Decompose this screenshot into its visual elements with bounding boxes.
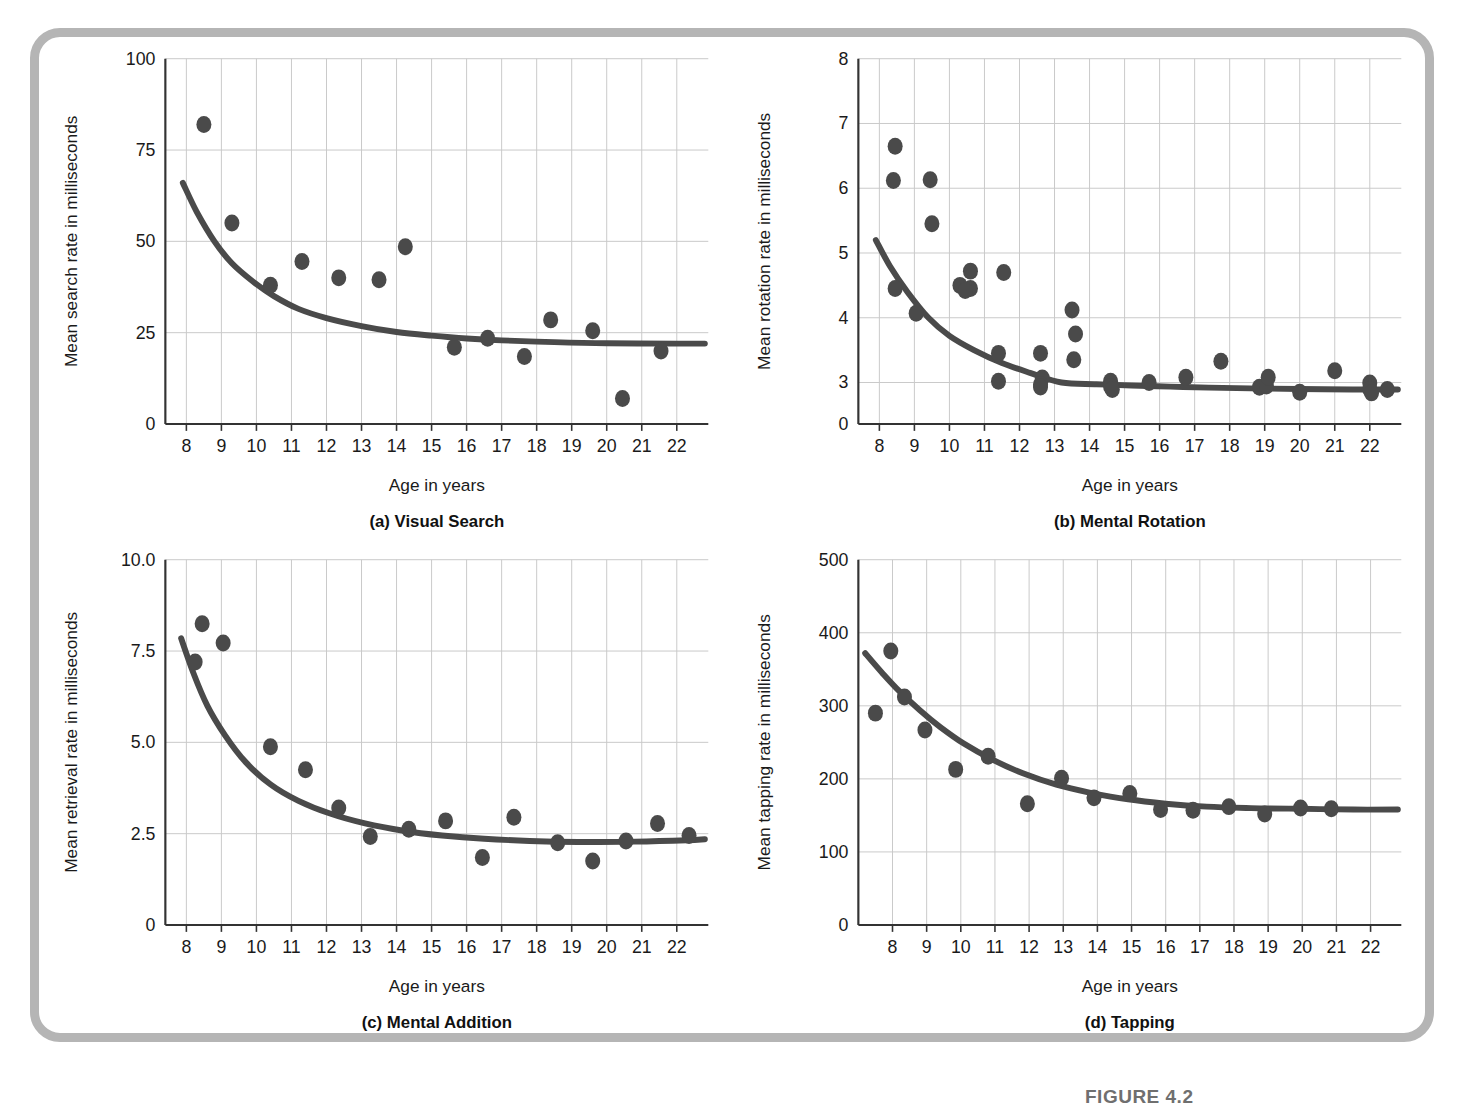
data-point — [868, 704, 883, 721]
data-point — [654, 342, 669, 359]
data-point — [1105, 381, 1120, 398]
y-axis-title: Mean tapping rate in milliseconds — [754, 613, 774, 870]
data-point — [438, 812, 453, 829]
data-point — [1364, 384, 1379, 401]
x-tick-label: 19 — [1258, 936, 1278, 956]
data-point — [897, 688, 912, 705]
data-point — [886, 172, 901, 189]
x-tick-label: 14 — [1080, 436, 1100, 456]
y-tick-label: 3 — [839, 372, 849, 392]
fitted-curve — [181, 638, 705, 842]
x-tick-label: 10 — [247, 936, 267, 956]
x-tick-label: 22 — [1361, 936, 1381, 956]
y-tick-label: 100 — [126, 49, 156, 69]
panel-caption: (a) Visual Search — [369, 512, 504, 531]
x-tick-label: 13 — [1045, 436, 1065, 456]
panel-caption: (b) Mental Rotation — [1054, 512, 1206, 531]
x-tick-label: 11 — [975, 436, 993, 456]
x-tick-label: 16 — [1156, 936, 1176, 956]
data-point — [981, 747, 996, 764]
y-tick-label: 500 — [819, 549, 849, 569]
fitted-curve — [876, 240, 1398, 389]
y-tick-label: 100 — [819, 841, 849, 861]
data-point — [909, 305, 924, 322]
x-tick-label: 20 — [1290, 436, 1310, 456]
data-point — [1122, 784, 1137, 801]
data-point — [958, 282, 973, 299]
y-tick-label: 300 — [819, 695, 849, 715]
y-tick-label: 0 — [839, 914, 849, 934]
x-tick-label: 9 — [909, 436, 919, 456]
data-point — [1324, 800, 1339, 817]
x-axis-title: Age in years — [389, 475, 485, 495]
y-tick-label: 0 — [839, 414, 849, 434]
data-point — [263, 277, 278, 294]
data-point — [615, 390, 630, 407]
figure-caption-label: FIGURE 4.2 — [1085, 1086, 1193, 1107]
y-tick-label: 2.5 — [131, 823, 156, 843]
data-point — [1380, 381, 1395, 398]
x-tick-label: 14 — [387, 436, 407, 456]
x-tick-label: 8 — [888, 936, 898, 956]
y-tick-label: 8 — [839, 49, 849, 69]
data-point — [1186, 801, 1201, 818]
x-tick-label: 11 — [282, 936, 300, 956]
data-point — [480, 330, 495, 347]
data-point — [298, 761, 313, 778]
y-tick-label: 5 — [839, 243, 849, 263]
data-point — [188, 653, 203, 670]
x-tick-label: 19 — [562, 436, 582, 456]
x-tick-label: 16 — [1150, 436, 1170, 456]
data-point — [991, 373, 1006, 390]
x-tick-label: 15 — [422, 436, 442, 456]
y-tick-label: 0 — [146, 414, 156, 434]
panel-mental-rotation: 03456788910111213141516171819202122Mean … — [732, 37, 1425, 538]
data-point — [363, 828, 378, 845]
x-tick-label: 18 — [1220, 436, 1240, 456]
panel-caption: (c) Mental Addition — [362, 1012, 512, 1031]
y-tick-label: 7 — [839, 113, 849, 133]
x-tick-label: 13 — [352, 436, 372, 456]
x-tick-label: 22 — [1360, 436, 1380, 456]
panel-grid: 02550751008910111213141516171819202122Me… — [39, 37, 1425, 1033]
data-point — [1257, 805, 1272, 822]
data-point — [401, 820, 416, 837]
y-tick-label: 400 — [819, 622, 849, 642]
data-point — [294, 253, 309, 270]
x-tick-label: 8 — [181, 436, 191, 456]
data-point — [398, 238, 413, 255]
y-tick-label: 0 — [146, 914, 156, 934]
data-point — [331, 269, 346, 286]
x-tick-label: 21 — [632, 936, 652, 956]
y-tick-label: 6 — [839, 178, 849, 198]
data-point — [263, 738, 278, 755]
data-point — [948, 760, 963, 777]
data-point — [618, 832, 633, 849]
panel-tapping: 0100200300400500891011121314151617181920… — [732, 538, 1425, 1039]
x-tick-label: 11 — [986, 936, 1004, 956]
x-tick-label: 20 — [1292, 936, 1312, 956]
x-tick-label: 8 — [874, 436, 884, 456]
x-tick-label: 11 — [282, 436, 300, 456]
chart-mental-rotation: 03456788910111213141516171819202122Mean … — [732, 37, 1425, 538]
x-tick-label: 18 — [527, 936, 547, 956]
data-point — [1142, 374, 1157, 391]
x-tick-label: 16 — [457, 936, 477, 956]
x-tick-label: 9 — [922, 936, 932, 956]
x-tick-label: 9 — [216, 436, 226, 456]
x-tick-label: 22 — [667, 436, 687, 456]
x-tick-label: 12 — [1010, 436, 1030, 456]
data-point — [216, 634, 231, 651]
y-tick-label: 75 — [136, 140, 156, 160]
x-axis-title: Age in years — [389, 976, 485, 996]
x-tick-label: 10 — [951, 936, 971, 956]
data-point — [1293, 799, 1308, 816]
data-point — [1327, 362, 1342, 379]
x-tick-label: 21 — [632, 436, 652, 456]
data-point — [1065, 301, 1080, 318]
figure-frame: 02550751008910111213141516171819202122Me… — [30, 28, 1434, 1042]
x-tick-label: 17 — [1190, 936, 1210, 956]
x-axis-title: Age in years — [1082, 475, 1178, 495]
x-tick-label: 10 — [940, 436, 960, 456]
data-point — [475, 848, 490, 865]
